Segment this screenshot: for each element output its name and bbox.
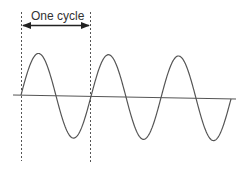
sine-wave-diagram (0, 0, 247, 171)
horizontal-axis (13, 95, 236, 99)
cycle-label: One cycle (31, 9, 84, 23)
sine-wave (21, 54, 231, 141)
